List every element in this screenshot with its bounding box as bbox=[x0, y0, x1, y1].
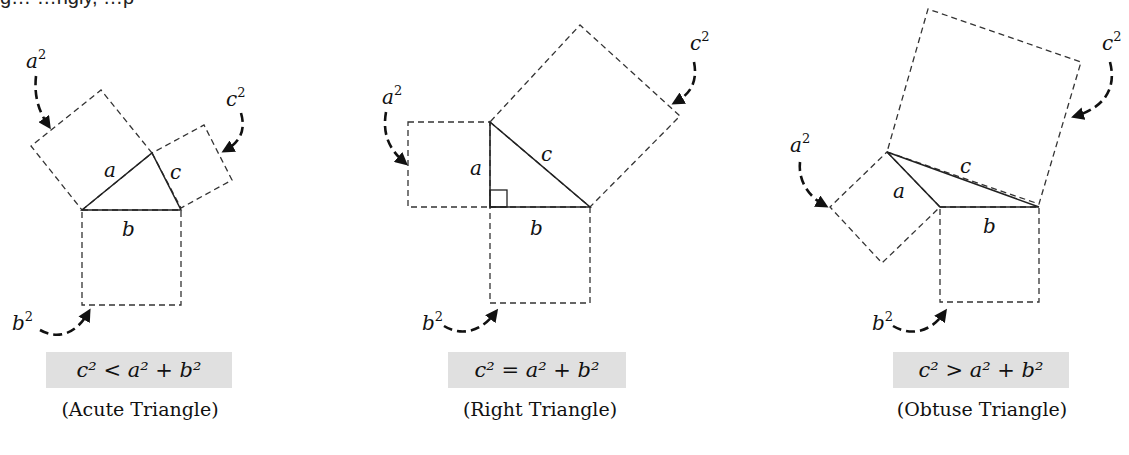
c2-label: c2 bbox=[690, 29, 709, 55]
obtuse-caption: (Obtuse Triangle) bbox=[857, 398, 1107, 420]
a2-label: a2 bbox=[790, 131, 810, 157]
triangle bbox=[82, 153, 181, 210]
a2-arrow bbox=[385, 112, 404, 162]
side-b-label: b bbox=[530, 216, 543, 240]
b2-label: b2 bbox=[12, 309, 33, 335]
b2-label: b2 bbox=[872, 309, 893, 335]
a2-label: a2 bbox=[26, 47, 46, 73]
obtuse-equation: c² > a² + b² bbox=[893, 352, 1069, 388]
square-c2 bbox=[887, 9, 1081, 204]
c2-arrow bbox=[676, 62, 695, 102]
a2-arrow bbox=[800, 162, 824, 205]
side-c-label: c bbox=[170, 160, 181, 184]
square-a2 bbox=[31, 90, 152, 210]
acute-equation: c² < a² + b² bbox=[46, 352, 232, 388]
b2-arrow bbox=[40, 313, 88, 335]
c2-arrow bbox=[226, 113, 243, 150]
right-caption: (Right Triangle) bbox=[420, 398, 660, 420]
side-a-label: a bbox=[893, 179, 905, 203]
b2-arrow bbox=[444, 313, 495, 332]
c2-arrow bbox=[1076, 62, 1112, 116]
c2-label: c2 bbox=[1102, 29, 1121, 55]
acute-triangle-diagram: a c b a2 c2 b2 bbox=[12, 47, 245, 335]
side-a-label: a bbox=[470, 156, 482, 180]
side-c-label: c bbox=[960, 154, 971, 178]
b2-label: b2 bbox=[422, 309, 443, 335]
c2-label: c2 bbox=[226, 85, 245, 111]
a2-arrow bbox=[36, 76, 49, 125]
right-triangle-diagram: a c b a2 c2 b2 bbox=[382, 25, 709, 335]
obtuse-triangle-diagram: a c b a2 c2 b2 bbox=[790, 9, 1121, 335]
a2-label: a2 bbox=[382, 83, 402, 109]
acute-caption: (Acute Triangle) bbox=[20, 398, 260, 420]
square-c2 bbox=[152, 125, 232, 208]
b2-arrow bbox=[893, 313, 944, 332]
square-a2 bbox=[830, 152, 940, 263]
side-b-label: b bbox=[983, 214, 996, 238]
side-b-label: b bbox=[122, 217, 135, 241]
square-c2 bbox=[490, 25, 680, 207]
right-angle-marker bbox=[490, 190, 507, 207]
side-c-label: c bbox=[541, 142, 552, 166]
triangle bbox=[490, 122, 590, 207]
side-a-label: a bbox=[104, 158, 116, 182]
right-equation: c² = a² + b² bbox=[448, 352, 626, 388]
